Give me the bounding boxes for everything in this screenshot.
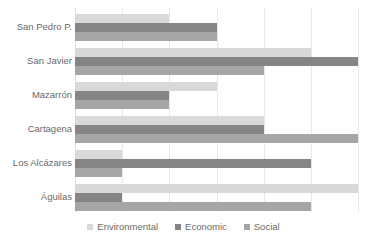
legend-swatch-icon	[175, 224, 181, 230]
legend-swatch-icon	[87, 224, 93, 230]
bar-environmental	[75, 116, 264, 125]
bar-group	[75, 150, 358, 184]
bar-economic	[75, 57, 358, 66]
category-label: Águilas	[0, 192, 72, 202]
bar-chart: San Pedro P.San JavierMazarrónCartagenaL…	[0, 0, 367, 246]
bar-economic	[75, 23, 217, 32]
legend-item[interactable]: Economic	[175, 222, 227, 232]
bar-social	[75, 134, 358, 143]
legend-swatch-icon	[244, 224, 250, 230]
bar-social	[75, 168, 122, 177]
bar-social	[75, 100, 169, 109]
plot-area	[75, 8, 358, 212]
bar-social	[75, 32, 217, 41]
bar-group	[75, 184, 358, 218]
bar-economic	[75, 91, 169, 100]
category-label: Los Alcázares	[0, 158, 72, 168]
bar-environmental	[75, 48, 311, 57]
legend-label: Environmental	[97, 222, 158, 232]
legend-label: Social	[254, 222, 280, 232]
legend-label: Economic	[185, 222, 227, 232]
chart-legend: EnvironmentalEconomicSocial	[0, 222, 367, 232]
category-label: San Javier	[0, 56, 72, 66]
bar-social	[75, 202, 311, 211]
bar-environmental	[75, 150, 122, 159]
bar-group	[75, 14, 358, 48]
legend-item[interactable]: Social	[244, 222, 280, 232]
bar-group	[75, 48, 358, 82]
bar-group	[75, 116, 358, 150]
category-label: San Pedro P.	[0, 22, 72, 32]
bar-group	[75, 82, 358, 116]
bar-environmental	[75, 14, 169, 23]
bar-economic	[75, 125, 264, 134]
legend-item[interactable]: Environmental	[87, 222, 158, 232]
bar-social	[75, 66, 264, 75]
bar-economic	[75, 159, 311, 168]
bar-environmental	[75, 184, 358, 193]
bar-environmental	[75, 82, 217, 91]
category-label: Cartagena	[0, 124, 72, 134]
category-label: Mazarrón	[0, 90, 72, 100]
bar-economic	[75, 193, 122, 202]
gridline	[358, 8, 359, 212]
